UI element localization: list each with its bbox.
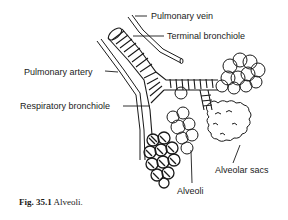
alveoli-cluster-middle (167, 107, 198, 154)
alveolar-sac (206, 101, 251, 142)
label-pulmonary-vein: Pulmonary vein (151, 11, 213, 21)
leader-lines (105, 16, 240, 183)
terminal-bronchiole-tube (106, 26, 218, 135)
caption-text: Alveoli. (54, 197, 83, 207)
alveoli-diagram: Pulmonary vein Terminal bronchiole Pulmo… (0, 0, 288, 220)
label-pulmonary-artery: Pulmonary artery (24, 67, 93, 77)
figure-caption: Fig. 35.1 Alveoli. (19, 197, 83, 207)
caption-number: Fig. 35.1 (19, 197, 52, 207)
label-alveolar-sacs: Alveolar sacs (215, 165, 269, 175)
label-alveoli: Alveoli (177, 186, 204, 196)
label-respiratory-bronchiole: Respiratory bronchiole (20, 101, 110, 111)
label-terminal-bronchiole: Terminal bronchiole (167, 31, 245, 41)
alveoli-cluster-hatched (144, 132, 180, 188)
alveolar-cluster-top (175, 53, 265, 99)
